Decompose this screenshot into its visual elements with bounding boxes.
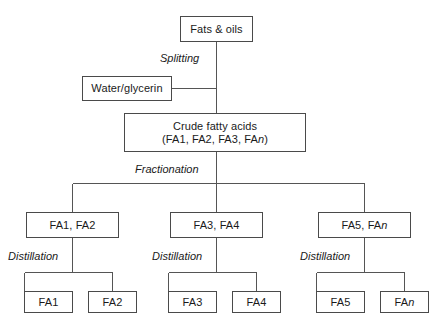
edge-label-distillation-right: Distillation [300, 250, 350, 262]
node-water-glycerin: Water/glycerin [82, 76, 172, 101]
node-crude-fatty-acids-line2: (FA1, FA2, FA3, FAn) [162, 133, 268, 146]
node-leaf-fa5: FA5 [316, 291, 365, 313]
node-leaf-fa3-label: FA3 [183, 296, 203, 309]
node-leaf-fa2: FA2 [88, 291, 137, 313]
node-leaf-fa1-label: FA1 [39, 296, 59, 309]
node-fats-oils: Fats & oils [180, 16, 253, 42]
edge-label-distillation-left: Distillation [8, 250, 58, 262]
edge-label-distillation-middle: Distillation [152, 250, 202, 262]
process-flow-diagram: Fats & oils Splitting Water/glycerin Cru… [0, 0, 439, 326]
edge-label-fractionation: Fractionation [135, 163, 199, 175]
node-water-glycerin-label: Water/glycerin [91, 82, 162, 95]
node-leaf-fan-label: FAn [395, 296, 415, 309]
node-branch-fa5-fan-label: FA5, FAn [341, 219, 387, 232]
node-leaf-fa2-label: FA2 [103, 296, 123, 309]
node-leaf-fa4: FA4 [232, 291, 281, 313]
node-leaf-fa3: FA3 [168, 291, 217, 313]
node-leaf-fa1: FA1 [24, 291, 73, 313]
connector-lines [0, 0, 439, 326]
node-leaf-fa4-label: FA4 [247, 296, 267, 309]
node-branch-fa5-fan: FA5, FAn [318, 212, 411, 238]
node-branch-fa3-fa4-label: FA3, FA4 [193, 219, 239, 232]
node-crude-fatty-acids: Crude fatty acids (FA1, FA2, FA3, FAn) [124, 113, 306, 152]
node-crude-fatty-acids-line1: Crude fatty acids [173, 120, 257, 133]
node-fats-oils-label: Fats & oils [190, 23, 242, 36]
node-branch-fa1-fa2-label: FA1, FA2 [49, 219, 95, 232]
node-branch-fa3-fa4: FA3, FA4 [170, 212, 263, 238]
node-branch-fa1-fa2: FA1, FA2 [26, 212, 119, 238]
node-leaf-fa5-label: FA5 [331, 296, 351, 309]
node-leaf-fan: FAn [380, 291, 429, 313]
edge-label-splitting: Splitting [160, 52, 199, 64]
